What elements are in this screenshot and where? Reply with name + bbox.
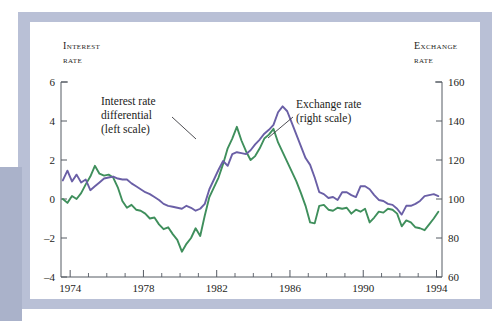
exchange-annot-line2: (right scale)	[296, 112, 351, 125]
interest-annot-line3: (left scale)	[101, 123, 150, 136]
right-tick-label: 100	[448, 193, 465, 205]
x-tick-label: 1986	[279, 282, 302, 294]
plot-wrapper: 6420–2–4 1601401201008060 19741978198219…	[0, 0, 504, 321]
right-axis: 1601401201008060	[436, 76, 465, 283]
x-tick-label: 1982	[206, 282, 228, 294]
exchange-annot-line1: Exchange rate	[296, 98, 361, 111]
right-tick-label: 160	[448, 76, 465, 88]
right-tick-label: 80	[448, 232, 460, 244]
exchange-rate-annotation: Exchange rate (right scale)	[268, 98, 361, 138]
x-tick-label: 1990	[352, 282, 375, 294]
right-axis-title-line1: Exchange	[414, 40, 458, 51]
x-axis: 197419781982198619901994	[59, 270, 448, 294]
interest-annot-line2: differential	[101, 109, 152, 121]
series-interest-rate-differential	[63, 127, 439, 252]
left-tick-label: 6	[50, 76, 56, 88]
left-tick-label: –4	[43, 271, 56, 283]
left-tick-label: 2	[50, 154, 56, 166]
x-tick-label: 1978	[132, 282, 155, 294]
interest-rate-annotation: Interest rate differential (left scale)	[101, 95, 196, 139]
right-axis-title-line2: rate	[414, 54, 433, 65]
left-tick-label: 4	[50, 115, 56, 127]
chart-figure: 6420–2–4 1601401201008060 19741978198219…	[0, 0, 504, 321]
left-axis-title-line2: rate	[63, 54, 82, 65]
left-tick-label: –2	[43, 232, 55, 244]
right-tick-label: 120	[448, 154, 465, 166]
left-tick-label: 0	[50, 193, 56, 205]
right-tick-label: 140	[448, 115, 465, 127]
interest-annot-line1: Interest rate	[101, 95, 156, 107]
line-chart-svg: 6420–2–4 1601401201008060 19741978198219…	[0, 0, 504, 321]
x-tick-label: 1994	[426, 282, 449, 294]
interest-annot-leader	[172, 117, 196, 139]
x-tick-label: 1974	[59, 282, 82, 294]
right-tick-label: 60	[448, 271, 460, 283]
left-axis-title-line1: Interest	[63, 40, 101, 51]
